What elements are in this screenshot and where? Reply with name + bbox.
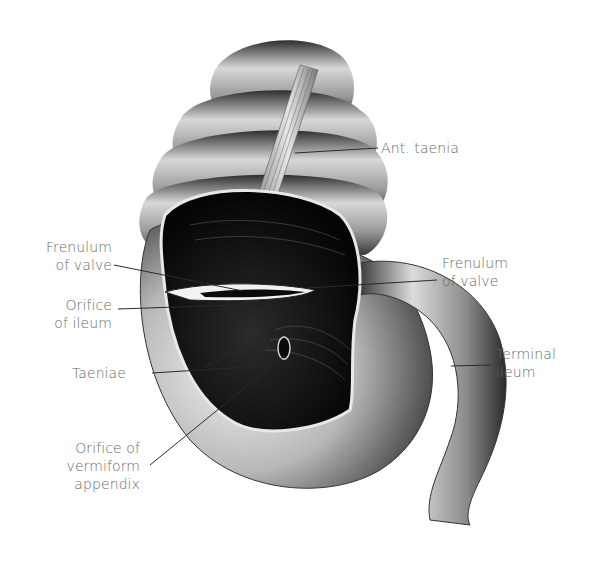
label-frenulum-of-valve-right: Frenulum of valve <box>442 254 508 290</box>
label-ant-taenia: Ant. taenia <box>381 139 459 157</box>
label-terminal-ileum: Terminal ileum <box>496 345 556 381</box>
label-frenulum-of-valve-left: Frenulum of valve <box>20 238 112 274</box>
label-orifice-of-vermiform-appendix: Orifice of vermiform appendix <box>40 439 140 493</box>
label-taeniae: Taeniae <box>40 364 126 382</box>
label-orifice-of-ileum: Orifice of ileum <box>20 296 112 332</box>
